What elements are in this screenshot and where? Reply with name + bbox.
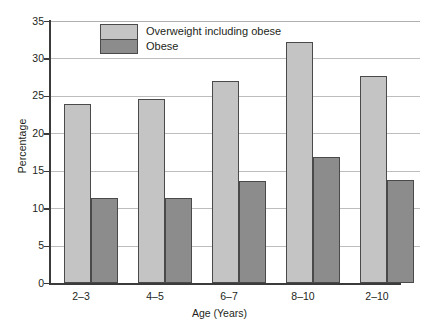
bar-overweight-2 xyxy=(212,81,239,283)
bar-overweight-4 xyxy=(360,76,387,283)
bar-group-2 xyxy=(212,21,272,283)
legend-swatch-obese-icon xyxy=(100,39,138,54)
y-tick-25 xyxy=(44,96,50,97)
x-tick-label-1: 4–5 xyxy=(125,291,185,302)
y-tick-label-30: 30 xyxy=(16,53,44,63)
bar-group-4 xyxy=(360,21,420,283)
y-tick-30 xyxy=(44,58,50,59)
x-tick-label-4: 2–10 xyxy=(347,291,407,302)
y-tick-label-10: 10 xyxy=(16,203,44,213)
y-tick-5 xyxy=(44,246,50,247)
x-tick-label-0: 2–3 xyxy=(51,291,111,302)
y-axis-title: Percentage xyxy=(16,91,28,201)
y-tick-35 xyxy=(44,21,50,22)
bar-group-3 xyxy=(286,21,346,283)
y-tick-0 xyxy=(44,283,50,284)
legend-label-overweight: Overweight including obese xyxy=(146,24,281,39)
bar-obese-1 xyxy=(165,198,192,283)
legend-item-obese: Obese xyxy=(100,39,281,54)
legend-item-overweight: Overweight including obese xyxy=(100,24,281,39)
x-tick-label-2: 6–7 xyxy=(199,291,259,302)
x-axis-line xyxy=(49,283,401,285)
y-tick-label-5: 5 xyxy=(16,240,44,250)
bar-overweight-0 xyxy=(64,104,91,283)
bar-obese-0 xyxy=(91,198,118,283)
y-tick-20 xyxy=(44,133,50,134)
legend-swatch-overweight-icon xyxy=(100,24,138,39)
legend-label-obese: Obese xyxy=(146,39,178,54)
y-tick-15 xyxy=(44,171,50,172)
x-tick-label-3: 8–10 xyxy=(273,291,333,302)
y-tick-10 xyxy=(44,208,50,209)
bar-overweight-3 xyxy=(286,42,313,283)
bar-obese-2 xyxy=(239,181,266,283)
bar-obese-4 xyxy=(387,180,414,283)
chart-legend: Overweight including obese Obese xyxy=(100,24,281,54)
bar-chart: 35 30 25 20 15 10 5 0 Percentage 2–3 4–5… xyxy=(0,0,439,329)
bar-obese-3 xyxy=(313,157,340,283)
y-tick-label-0: 0 xyxy=(16,278,44,288)
y-tick-label-35: 35 xyxy=(16,16,44,26)
bar-group-0 xyxy=(64,21,124,283)
bar-group-1 xyxy=(138,21,198,283)
plot-area xyxy=(50,21,420,283)
bar-overweight-1 xyxy=(138,99,165,283)
x-axis-title: Age (Years) xyxy=(0,307,439,319)
